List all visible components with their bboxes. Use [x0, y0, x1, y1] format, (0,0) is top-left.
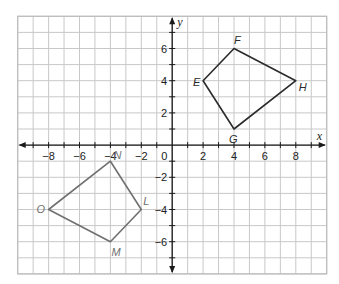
x-tick-label: −2 — [135, 150, 148, 162]
origin-label: 0 — [161, 150, 167, 162]
axes — [19, 17, 326, 273]
x-tick-label: 6 — [262, 150, 268, 162]
y-axis-down-arrow-icon — [169, 266, 175, 273]
vertex-label-n: N — [113, 149, 121, 161]
x-tick-label: 4 — [231, 150, 237, 162]
y-tick-label: −6 — [155, 236, 168, 248]
x-tick-label: 2 — [200, 150, 206, 162]
y-tick-label: −4 — [155, 204, 168, 216]
vertex-label-e: E — [193, 76, 201, 88]
x-tick-label: −6 — [73, 150, 86, 162]
y-tick-label: −2 — [155, 171, 168, 183]
y-axis-up-arrow-icon — [169, 17, 175, 24]
y-axis-label: y — [176, 15, 183, 29]
coordinate-plane: −8−6−4−22468642−2−4−60yxEFHGNOML — [0, 0, 339, 284]
x-axis-label: x — [316, 129, 323, 143]
y-tick-label: 2 — [161, 107, 167, 119]
vertex-label-h: H — [299, 81, 307, 93]
vertex-label-l: L — [143, 195, 149, 207]
x-tick-label: 8 — [293, 150, 299, 162]
vertex-label-m: M — [111, 246, 121, 258]
x-axis-left-arrow-icon — [19, 142, 26, 148]
vertex-label-f: F — [234, 34, 242, 46]
x-tick-label: −8 — [42, 150, 55, 162]
y-tick-label: 4 — [161, 75, 167, 87]
vertex-label-g: G — [229, 133, 238, 145]
y-tick-label: 6 — [161, 43, 167, 55]
vertex-label-o: O — [37, 203, 46, 215]
